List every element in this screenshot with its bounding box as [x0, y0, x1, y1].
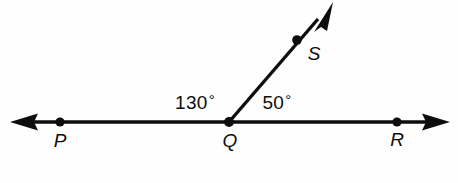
- point-dot-r: [392, 117, 401, 126]
- geometry-canvas: [0, 0, 458, 183]
- point-dot-q: [224, 117, 234, 127]
- arrowhead-left-icon: [10, 114, 38, 131]
- arrowhead-right-icon: [422, 114, 450, 131]
- geometry-figure: P Q R S 130° 50°: [0, 0, 458, 183]
- ray-qs-shaft: [229, 19, 318, 122]
- point-dot-p: [55, 117, 64, 126]
- arrowhead-ray-qs-icon: [314, 2, 333, 32]
- point-dot-s: [292, 35, 302, 45]
